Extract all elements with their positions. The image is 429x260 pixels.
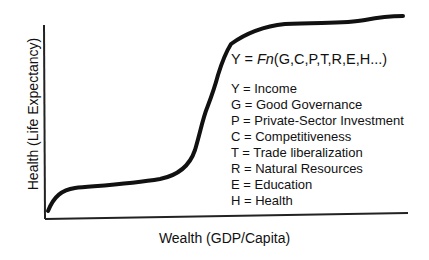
- formula-fn: Fn: [257, 51, 274, 67]
- legend-item-education: E = Education: [231, 177, 404, 193]
- x-axis-label: Wealth (GDP/Capita): [0, 230, 429, 246]
- y-axis: [44, 25, 45, 219]
- legend-item-private-sector-investment: P = Private-Sector Investment: [231, 113, 404, 129]
- legend-item-health: H = Health: [231, 193, 404, 209]
- legend-item-competitiveness: C = Competitiveness: [231, 129, 404, 145]
- y-axis-label: Health (Life Expectancy): [25, 14, 41, 214]
- formula-label: Y = Fn(G,C,P,T,R,E,H...): [231, 51, 387, 67]
- variable-legend: Y = Income G = Good Governance P = Priva…: [231, 81, 404, 209]
- legend-item-natural-resources: R = Natural Resources: [231, 161, 404, 177]
- legend-item-trade-liberalization: T = Trade liberalization: [231, 145, 404, 161]
- formula-args: (G,C,P,T,R,E,H...): [274, 51, 387, 67]
- formula-lhs: Y =: [231, 51, 257, 67]
- legend-item-income: Y = Income: [231, 81, 404, 97]
- x-axis: [45, 213, 408, 219]
- legend-item-good-governance: G = Good Governance: [231, 97, 404, 113]
